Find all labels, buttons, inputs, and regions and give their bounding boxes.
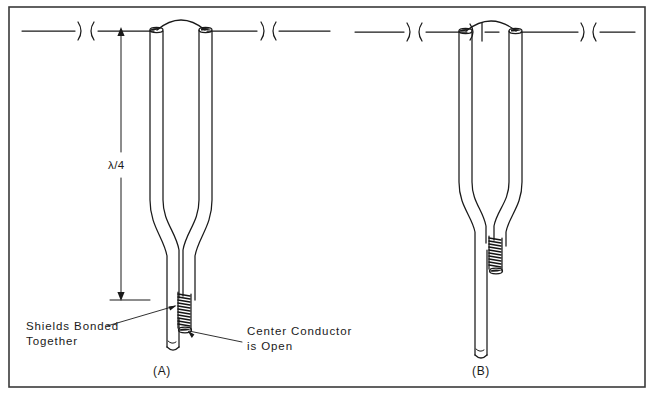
- coax-right-outer-edge-a: [195, 31, 212, 300]
- callout-label-shields-line1: Shields Bonded: [26, 320, 119, 332]
- coax-left-outer-edge-a: [150, 30, 167, 347]
- break-symbol-icon-b-right: [581, 23, 596, 41]
- figure-container: λ/4 Shields Bonded Together Center Condu…: [0, 0, 654, 394]
- callout-label-center-conductor-line1: Center Conductor: [247, 325, 352, 337]
- bonded-shield-coil-icon-a: [178, 294, 190, 326]
- coax-left-inner-edge-b: [472, 32, 486, 243]
- break-symbol-icon-a-left: [78, 22, 94, 40]
- panel-caption-a: (A): [153, 364, 171, 378]
- bridge-arch-a: [157, 20, 205, 30]
- coax-left-bottom-cap-a: [167, 347, 179, 350]
- center-conductor-open-fill-a: [179, 328, 191, 330]
- coax-right-inner-edge-a: [183, 30, 199, 296]
- callout-label-center-conductor-line2: is Open: [247, 340, 293, 352]
- break-symbol-icon-b-left: [407, 23, 422, 41]
- bonded-shield-coil-icon-b: [489, 238, 501, 267]
- callout-arrow-shields: [169, 306, 177, 311]
- break-symbol-icon-a-right: [261, 22, 276, 40]
- coax-right-top-shield-dot-b: [511, 29, 521, 31]
- dimension-label-lambda-quarter: λ/4: [108, 159, 125, 171]
- panel-caption-b: (B): [472, 364, 490, 378]
- panel-b: (B): [355, 21, 635, 378]
- coax-left-bottom-lumen-b: [476, 349, 484, 351]
- coax-left-bottom-cap-b: [475, 355, 487, 358]
- center-conductor-open-fill-b: [490, 269, 502, 271]
- coax-left-top-shield-dot-b: [460, 29, 470, 31]
- bridge-arch-b: [466, 21, 516, 31]
- coax-right-inner-edge-b: [494, 31, 509, 240]
- coax-right-top-shield-dot-a: [201, 28, 211, 30]
- coax-stub-diagram: λ/4 Shields Bonded Together Center Condu…: [0, 0, 654, 394]
- callout-label-shields-line2: Together: [26, 335, 78, 347]
- coax-left-top-shield-dot-a: [151, 28, 161, 30]
- coax-left-bottom-lumen-a: [168, 341, 176, 343]
- callout-leader-center-conductor: [189, 331, 242, 342]
- panel-a: λ/4 Shields Bonded Together Center Condu…: [22, 20, 352, 378]
- coax-left-inner-edge-a: [163, 31, 179, 298]
